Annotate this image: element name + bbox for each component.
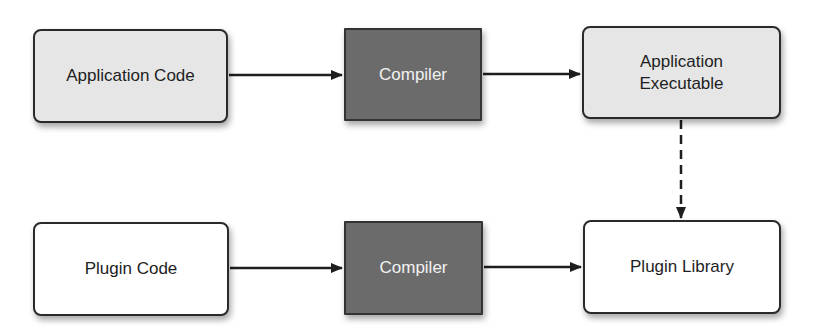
node-application-executable: Application Executable — [582, 26, 781, 119]
node-application-code: Application Code — [33, 29, 228, 123]
node-label: Compiler — [379, 64, 447, 86]
node-compiler-top: Compiler — [344, 28, 482, 121]
node-compiler-bottom: Compiler — [344, 221, 483, 315]
node-plugin-code: Plugin Code — [33, 222, 229, 316]
node-label: Plugin Code — [85, 258, 178, 280]
node-label-line1: Application — [640, 51, 723, 73]
node-label: Compiler — [379, 257, 447, 279]
node-plugin-library: Plugin Library — [583, 220, 781, 314]
node-label-line2: Executable — [639, 73, 723, 95]
node-label: Plugin Library — [630, 256, 734, 278]
node-label: Application Code — [66, 65, 195, 87]
